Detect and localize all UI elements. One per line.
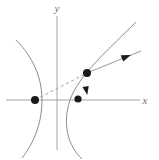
point-on-right-branch-upper xyxy=(83,69,91,77)
hyperbola-right-branch xyxy=(66,22,136,159)
left-focus-point xyxy=(31,96,39,104)
point-on-right-branch-lower xyxy=(74,95,81,102)
figure-canvas: y x xyxy=(0,0,159,160)
x-axis-label: x xyxy=(142,94,148,106)
y-axis-label: y xyxy=(54,2,60,14)
curve-direction-arrowhead-icon xyxy=(82,86,90,96)
ray-to-arrow xyxy=(87,51,141,73)
ray-arrowhead-icon xyxy=(121,52,132,62)
hyperbola-figure: y x xyxy=(0,0,159,160)
